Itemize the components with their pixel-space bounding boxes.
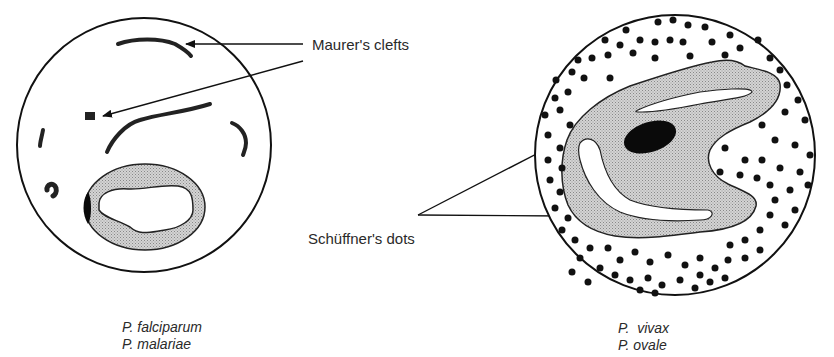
right-species-caption: P. vivax P. ovale [618,320,669,354]
species-name-vivax: P. vivax [618,320,669,337]
species-name-ovale: P. ovale [618,337,669,354]
left-species-caption: P. falciparum P. malariae [122,319,202,353]
right-red-blood-cell [535,15,815,297]
malaria-diagram [0,0,834,357]
left-red-blood-cell [17,18,271,272]
species-name-malariae: P. malariae [122,336,202,353]
maurers-clefts-label: Maurer's clefts [312,36,409,53]
ring-form-parasite [84,164,206,250]
arrow-to-dot-1 [418,148,548,215]
schuffners-dots-label: Schüffner's dots [308,230,415,247]
arrow-to-dot-2 [418,215,563,216]
species-name-falciparum: P. falciparum [122,319,202,336]
